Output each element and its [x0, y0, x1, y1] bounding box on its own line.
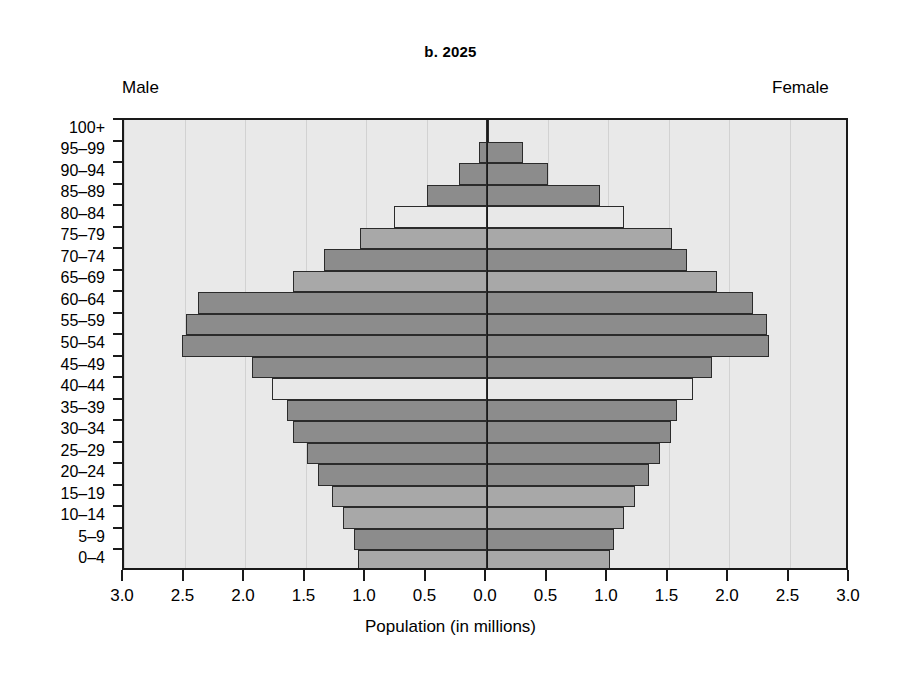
- y-axis-tick: [113, 462, 124, 464]
- bar-female-80-84: [487, 206, 624, 228]
- x-axis-label: 2.5: [153, 586, 213, 606]
- bar-female-35-39: [487, 400, 677, 422]
- y-axis-tick: [113, 183, 124, 185]
- x-axis-tick: [484, 570, 486, 581]
- y-axis-label-75-79: 75–79: [61, 227, 106, 243]
- y-axis-label-35-39: 35–39: [61, 400, 106, 416]
- y-axis-label-45-49: 45–49: [61, 357, 106, 373]
- y-axis-tick: [113, 226, 124, 228]
- y-axis-tick: [113, 505, 124, 507]
- y-axis-tick: [113, 161, 124, 163]
- bar-male-20-24: [318, 464, 487, 486]
- bar-male-70-74: [324, 249, 487, 271]
- y-axis-label-25-29: 25–29: [61, 443, 106, 459]
- bar-female-50-54: [487, 335, 769, 357]
- x-axis-label: 2.5: [758, 586, 818, 606]
- x-axis-tick: [847, 570, 849, 581]
- y-axis-tick: [113, 247, 124, 249]
- bar-male-45-49: [252, 357, 487, 379]
- bar-female-15-19: [487, 486, 635, 508]
- bar-male-10-14: [343, 507, 487, 529]
- y-axis-label-90-94: 90–94: [61, 163, 106, 179]
- female-side-label: Female: [772, 78, 829, 98]
- bar-female-70-74: [487, 249, 687, 271]
- bar-male-5-9: [354, 529, 487, 551]
- y-axis-label-65-69: 65–69: [61, 270, 106, 286]
- y-axis-tick: [113, 527, 124, 529]
- bar-female-75-79: [487, 228, 672, 250]
- gridline: [124, 120, 125, 568]
- y-axis-label-40-44: 40–44: [61, 378, 106, 394]
- bar-female-60-64: [487, 292, 753, 314]
- x-axis-label: 3.0: [818, 586, 878, 606]
- y-axis-tick: [113, 312, 124, 314]
- x-axis-tick: [242, 570, 244, 581]
- x-axis-label: 2.0: [697, 586, 757, 606]
- x-axis-tick: [182, 570, 184, 581]
- bar-female-20-24: [487, 464, 649, 486]
- y-axis-label-15-19: 15–19: [61, 486, 106, 502]
- x-axis-label: 0.5: [516, 586, 576, 606]
- bar-female-45-49: [487, 357, 712, 379]
- male-side-label: Male: [122, 78, 159, 98]
- y-axis-label-0-4: 0–4: [78, 550, 105, 566]
- center-axis-line: [487, 120, 488, 568]
- bar-male-50-54: [182, 335, 487, 357]
- gridline: [790, 120, 791, 568]
- x-axis-tick: [605, 570, 607, 581]
- bar-female-0-4: [487, 550, 610, 570]
- y-axis-label-60-64: 60–64: [61, 292, 106, 308]
- y-axis-tick: [113, 204, 124, 206]
- y-axis-tick: [113, 398, 124, 400]
- bar-female-5-9: [487, 529, 614, 551]
- bar-female-10-14: [487, 507, 624, 529]
- y-axis-tick: [113, 441, 124, 443]
- x-axis-tick: [121, 570, 123, 581]
- bar-male-30-34: [293, 421, 487, 443]
- bar-female-30-34: [487, 421, 671, 443]
- y-axis-label-100+: 100+: [69, 120, 105, 136]
- population-pyramid-figure: b. 2025 Male Female 0–45–910–1415–1920–2…: [0, 0, 901, 696]
- bar-female-85-89: [487, 185, 600, 207]
- x-axis-tick: [787, 570, 789, 581]
- bar-male-85-89: [427, 185, 488, 207]
- bar-male-90-94: [459, 163, 487, 185]
- bar-female-55-59: [487, 314, 767, 336]
- bar-male-65-69: [293, 271, 487, 293]
- x-axis-label: 0.0: [455, 586, 515, 606]
- y-axis-tick: [113, 269, 124, 271]
- y-axis-label-70-74: 70–74: [61, 249, 106, 265]
- x-axis-title: Population (in millions): [0, 617, 901, 637]
- x-axis-tick: [424, 570, 426, 581]
- bar-male-40-44: [272, 378, 487, 400]
- y-axis-label-10-14: 10–14: [61, 507, 106, 523]
- x-axis-label: 1.5: [274, 586, 334, 606]
- bar-female-65-69: [487, 271, 717, 293]
- x-axis-tick: [303, 570, 305, 581]
- chart-title: b. 2025: [0, 43, 901, 60]
- bar-male-25-29: [307, 443, 487, 465]
- x-axis-tick: [666, 570, 668, 581]
- y-axis-tick: [113, 333, 124, 335]
- bar-female-40-44: [487, 378, 693, 400]
- y-axis-tick: [113, 290, 124, 292]
- y-axis-tick: [113, 376, 124, 378]
- x-axis-label: 3.0: [92, 586, 152, 606]
- y-axis-label-50-54: 50–54: [61, 335, 106, 351]
- bar-male-0-4: [358, 550, 487, 570]
- y-axis-tick: [113, 140, 124, 142]
- x-axis-tick: [726, 570, 728, 581]
- x-axis-label: 1.0: [334, 586, 394, 606]
- y-axis-label-30-34: 30–34: [61, 421, 106, 437]
- y-axis-label-5-9: 5–9: [78, 529, 105, 545]
- bar-female-25-29: [487, 443, 660, 465]
- bar-male-80-84: [394, 206, 487, 228]
- y-axis-tick: [113, 419, 124, 421]
- x-axis-label: 2.0: [213, 586, 273, 606]
- y-axis-tick: [113, 484, 124, 486]
- bar-female-95-99: [487, 142, 523, 164]
- bar-male-55-59: [186, 314, 487, 336]
- y-axis-label-80-84: 80–84: [61, 206, 106, 222]
- x-axis-label: 1.0: [576, 586, 636, 606]
- x-axis-label: 1.5: [637, 586, 697, 606]
